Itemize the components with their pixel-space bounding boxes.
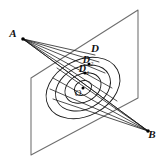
plane-outline <box>31 10 138 155</box>
point-dot-o <box>82 87 85 90</box>
label-a: A <box>8 27 16 39</box>
label-o: O <box>75 88 82 98</box>
figure-canvas: ABDD2D1O <box>0 0 165 165</box>
label-subscript: 2 <box>90 61 93 67</box>
point-dot-a <box>21 37 25 41</box>
plane-group <box>31 10 138 155</box>
label-subscript: 1 <box>86 70 89 76</box>
ray-from-b-4 <box>53 99 148 131</box>
geometry-figure: ABDD2D1O <box>0 0 165 165</box>
label-d: D <box>90 42 99 54</box>
ray-from-a-1 <box>23 39 117 101</box>
label-b: B <box>147 128 155 140</box>
